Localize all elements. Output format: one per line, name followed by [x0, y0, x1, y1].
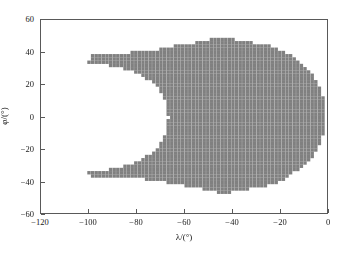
scatter-plot-figure: −120−100−80−60−40−200 6040200−20−40−60 λ… [0, 0, 344, 258]
x-tick-label: −80 [129, 218, 142, 227]
y-tick-label: −40 [21, 177, 34, 186]
y-tick-mark [41, 149, 45, 150]
x-tick-label: −120 [31, 218, 49, 227]
x-axis-title-text: λ/(°) [176, 232, 192, 242]
y-tick-label: 20 [26, 80, 35, 89]
x-tick-label: 0 [326, 218, 330, 227]
y-tick-mark [41, 214, 45, 215]
y-tick-mark [41, 52, 45, 53]
y-tick-label: 60 [26, 15, 35, 24]
y-tick-mark [41, 19, 45, 20]
y-tick-label: −20 [21, 145, 34, 154]
y-tick-mark [41, 84, 45, 85]
y-tick-mark [41, 182, 45, 183]
x-tick-mark [136, 209, 137, 213]
x-tick-mark [280, 209, 281, 213]
x-tick-label: −20 [273, 218, 286, 227]
y-axis-title: φ/(°) [0, 107, 9, 124]
x-tick-label: −60 [177, 218, 190, 227]
x-tick-mark [232, 209, 233, 213]
x-tick-mark [40, 209, 41, 213]
y-tick-mark [41, 117, 45, 118]
x-tick-mark [328, 209, 329, 213]
y-tick-label: −60 [21, 210, 34, 219]
x-tick-label: −40 [225, 218, 238, 227]
scatter-points-layer [41, 20, 328, 214]
y-tick-label: 0 [30, 112, 34, 121]
y-tick-label: 40 [26, 47, 35, 56]
x-axis-title: λ/(°) [176, 232, 192, 242]
plot-area [40, 19, 328, 214]
x-tick-label: −100 [79, 218, 97, 227]
y-axis-title-text: φ/(°) [0, 107, 9, 124]
x-tick-mark [88, 209, 89, 213]
x-tick-mark [184, 209, 185, 213]
